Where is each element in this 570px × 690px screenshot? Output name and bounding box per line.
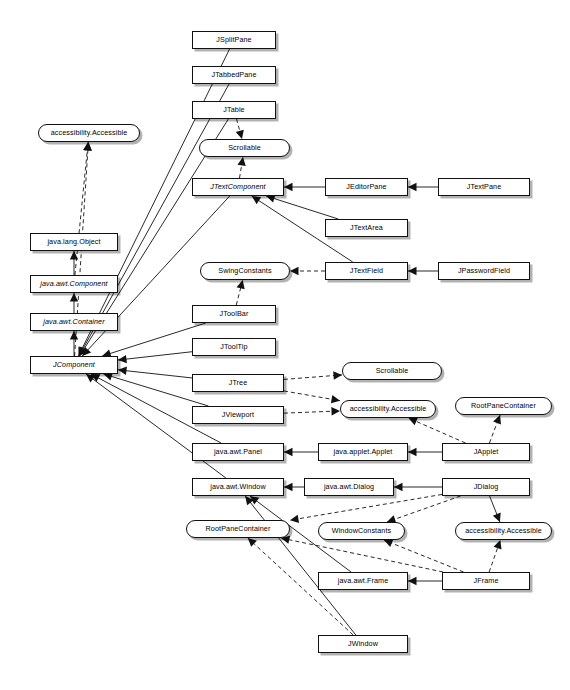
- arrowhead: [284, 448, 293, 456]
- edge-jframe-to-awtframe: [408, 577, 442, 585]
- arrowhead: [82, 347, 91, 356]
- node-accessible_low[interactable]: accessibility.Accessible: [455, 522, 552, 540]
- edge-awtcomponent-to-object: [70, 251, 78, 275]
- arrowhead: [237, 157, 245, 166]
- arrowhead: [290, 515, 299, 523]
- edge-jtree-to-jcomponent: [118, 367, 192, 378]
- node-jtextarea[interactable]: JTextArea: [325, 219, 408, 237]
- node-jcomponent[interactable]: JComponent: [30, 356, 118, 374]
- node-scrollable_right[interactable]: Scrollable: [342, 362, 442, 380]
- edge-jdialog-to-windowconstants: [387, 496, 461, 523]
- node-label: RootPaneContainer: [469, 402, 538, 409]
- node-label: JPasswordField: [456, 267, 512, 274]
- node-object[interactable]: java.lang.Object: [30, 233, 118, 251]
- node-jdialog[interactable]: JDialog: [442, 478, 530, 496]
- node-label: accessibility.Accessible: [348, 405, 429, 412]
- node-label: JTextPane: [465, 183, 503, 190]
- arrowhead: [384, 539, 393, 547]
- arrowhead: [284, 483, 293, 491]
- node-label: WindowConstants: [330, 527, 393, 534]
- node-jtextcomponent[interactable]: JTextComponent: [192, 178, 284, 196]
- arrowhead: [252, 196, 261, 204]
- node-awtframe[interactable]: java.awt.Frame: [318, 572, 408, 590]
- node-label: java.awt.Component: [38, 280, 109, 287]
- arrowhead: [80, 347, 88, 356]
- arrowhead: [408, 448, 417, 456]
- arrowhead: [245, 496, 254, 505]
- node-jviewport[interactable]: JViewport: [192, 406, 284, 424]
- arrowhead: [394, 483, 403, 491]
- arrowhead: [237, 280, 245, 289]
- node-jtooltip[interactable]: JToolTip: [192, 338, 276, 356]
- arrowhead: [86, 374, 95, 382]
- node-japplet[interactable]: JApplet: [442, 443, 530, 461]
- node-jtable[interactable]: JTable: [192, 101, 276, 119]
- edge-jviewport-to-accessible_mid: [284, 407, 340, 415]
- node-label: java.applet.Applet: [332, 448, 395, 455]
- node-label: java.awt.Dialog: [322, 483, 376, 490]
- node-awtwindow[interactable]: java.awt.Window: [192, 478, 284, 496]
- arrowhead: [493, 513, 501, 522]
- node-jpasswordfield[interactable]: JPasswordField: [438, 262, 530, 280]
- node-appletcls[interactable]: java.applet.Applet: [318, 443, 408, 461]
- edge-jdialog-to-accessible_low: [490, 496, 501, 522]
- edge-jtooltip-to-jcomponent: [118, 352, 192, 364]
- arrowhead: [284, 183, 293, 191]
- edge-jtextpane-to-jeditorpane: [408, 183, 438, 191]
- edge-jtextcomponent-to-scrollable_top: [237, 157, 245, 178]
- uml-class-diagram: accessibility.Accessiblejava.lang.Object…: [0, 0, 570, 690]
- node-awtpanel[interactable]: java.awt.Panel: [192, 443, 284, 461]
- node-label: accessibility.Accessible: [49, 129, 130, 136]
- edge-jtree-to-accessible_mid: [284, 391, 340, 403]
- node-awtcomponent[interactable]: java.awt.Component: [30, 275, 118, 293]
- node-jframe[interactable]: JFrame: [442, 572, 530, 590]
- edge-japplet-to-appletcls: [408, 448, 442, 456]
- arrowhead: [78, 347, 86, 356]
- arrowhead: [408, 267, 417, 275]
- node-label: JViewport: [220, 411, 256, 418]
- node-label: JTree: [227, 379, 250, 386]
- edge-awtdialog-to-awtwindow: [284, 483, 304, 491]
- node-jtabbedpane[interactable]: JTabbedPane: [192, 66, 276, 84]
- edge-japplet-to-accessible_mid: [409, 418, 466, 443]
- node-accessible_top[interactable]: accessibility.Accessible: [38, 124, 140, 142]
- node-jtextfield[interactable]: JTextField: [325, 262, 408, 280]
- node-label: java.awt.Panel: [212, 448, 264, 455]
- arrowhead: [493, 415, 501, 424]
- node-label: JToolBar: [218, 310, 251, 317]
- node-scrollable_top[interactable]: Scrollable: [199, 139, 290, 157]
- node-jwindow[interactable]: JWindow: [318, 635, 408, 653]
- node-label: java.awt.Frame: [336, 577, 391, 584]
- arrowhead: [236, 130, 244, 139]
- arrowhead: [91, 374, 100, 382]
- node-label: JSplitPane: [214, 36, 253, 43]
- arrowhead: [408, 577, 417, 585]
- arrowhead: [70, 331, 78, 340]
- arrowhead: [409, 418, 418, 426]
- node-windowconstants[interactable]: WindowConstants: [318, 522, 405, 540]
- edge-awtcomponent-to-accessible_top: [75, 142, 92, 275]
- node-rpc_left[interactable]: RootPaneContainer: [186, 520, 290, 538]
- node-label: Scrollable: [226, 144, 263, 151]
- edge-appletcls-to-awtpanel: [284, 448, 318, 456]
- node-jtextpane[interactable]: JTextPane: [438, 178, 530, 196]
- node-rpc_right[interactable]: RootPaneContainer: [455, 397, 552, 415]
- node-label: java.awt.Container: [41, 318, 106, 325]
- node-swingconstants[interactable]: SwingConstants: [200, 262, 290, 280]
- edge-jframe-to-accessible_low: [489, 540, 501, 572]
- node-jtoolbar[interactable]: JToolBar: [192, 305, 276, 323]
- node-awtcontainer[interactable]: java.awt.Container: [30, 313, 118, 331]
- node-jsplitpane[interactable]: JSplitPane: [192, 31, 276, 49]
- arrowhead: [79, 347, 87, 356]
- node-label: JTextComponent: [208, 183, 267, 190]
- node-label: JTable: [221, 106, 246, 113]
- arrowhead: [118, 355, 127, 363]
- node-label: Scrollable: [374, 367, 411, 374]
- node-jeditorpane[interactable]: JEditorPane: [325, 178, 408, 196]
- node-jtree[interactable]: JTree: [192, 374, 284, 392]
- node-accessible_mid[interactable]: accessibility.Accessible: [340, 400, 436, 418]
- arrowhead: [333, 371, 342, 379]
- edge-jpasswordfield-to-jtextfield: [408, 267, 438, 275]
- node-awtdialog[interactable]: java.awt.Dialog: [304, 478, 394, 496]
- arrowhead: [118, 367, 127, 375]
